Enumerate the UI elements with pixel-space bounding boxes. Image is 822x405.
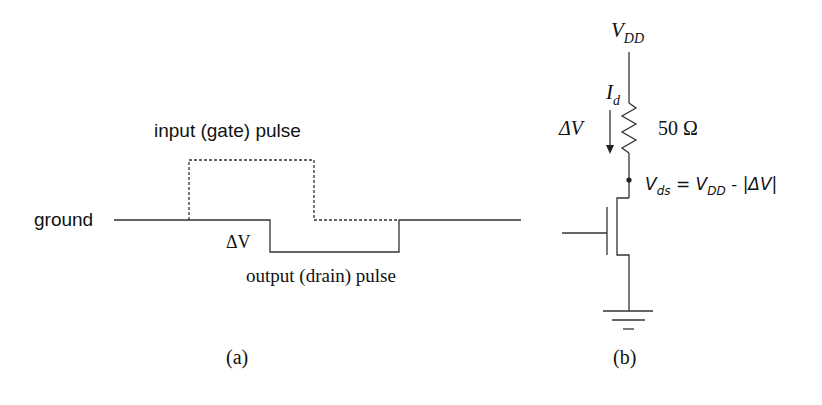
input-gate-waveform <box>189 160 399 220</box>
drain-node-dot <box>626 177 631 182</box>
current-label: Id <box>605 80 621 108</box>
diagram-canvas: ground input (gate) pulse output (drain)… <box>0 0 822 405</box>
transistor-channel <box>617 198 629 311</box>
ground-label: ground <box>34 209 93 230</box>
current-arrow-head <box>606 145 614 154</box>
delta-v-label-a: ΔV <box>226 232 251 252</box>
input-pulse-label: input (gate) pulse <box>154 120 301 141</box>
resistor-symbol <box>622 103 636 153</box>
output-pulse-label: output (drain) pulse <box>246 265 396 287</box>
resistor-value: 50 Ω <box>658 117 698 139</box>
vdd-label: VDD <box>611 18 644 46</box>
caption-a: (a) <box>226 346 248 369</box>
vds-equation: Vds = VDD - |ΔV| <box>645 174 777 198</box>
delta-v-label-b: ΔV <box>558 117 586 139</box>
panel-a <box>114 160 521 252</box>
output-drain-waveform <box>114 220 521 252</box>
caption-b: (b) <box>613 346 636 369</box>
